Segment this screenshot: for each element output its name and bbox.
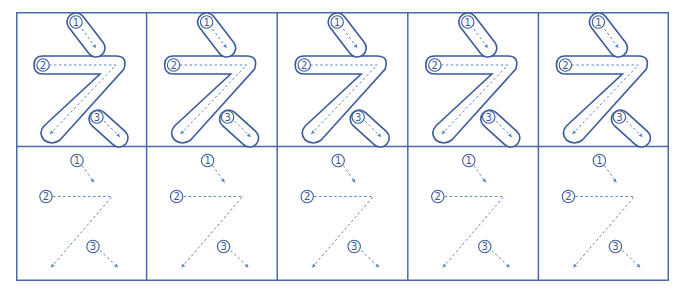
stroke-number-badge-3: 3 bbox=[91, 111, 103, 123]
stroke-number-badge-1: 1 bbox=[332, 154, 344, 166]
stroke-number: 3 bbox=[355, 112, 361, 123]
stroke-guide-line bbox=[622, 251, 640, 268]
stroke-number: 1 bbox=[73, 17, 79, 28]
arrow-head-icon bbox=[182, 264, 186, 268]
stroke-number-badge-1: 1 bbox=[592, 16, 604, 28]
practice-grid: 123123123123123123123123123123 bbox=[16, 12, 669, 281]
stroke-number: 2 bbox=[173, 191, 179, 202]
stroke-number: 1 bbox=[203, 17, 209, 28]
practice-sheet: 123123123123123123123123123123 bbox=[16, 12, 669, 281]
stroke-number-badge-1: 1 bbox=[331, 16, 343, 28]
stroke-number: 3 bbox=[220, 241, 226, 252]
stroke-number: 1 bbox=[335, 155, 341, 166]
cell-trace-guides-4[interactable]: 123 bbox=[432, 154, 510, 267]
stroke-number-badge-3: 3 bbox=[217, 240, 229, 252]
stroke-number: 1 bbox=[334, 17, 340, 28]
cell-trace-outline-2[interactable]: 123 bbox=[165, 13, 259, 147]
stroke-number: 2 bbox=[562, 60, 568, 71]
stroke-number-badge-2: 2 bbox=[562, 190, 574, 202]
stroke-guide-line bbox=[443, 197, 504, 268]
stroke-guide-line bbox=[231, 251, 249, 268]
stroke-number: 1 bbox=[595, 17, 601, 28]
stroke-guide-line bbox=[361, 251, 379, 268]
stroke-number-badge-3: 3 bbox=[613, 111, 625, 123]
stroke-number-badge-2: 2 bbox=[432, 190, 444, 202]
stroke-guide-line bbox=[573, 197, 634, 268]
stroke-number: 1 bbox=[465, 17, 471, 28]
stroke-number-badge-3: 3 bbox=[609, 240, 621, 252]
stroke-number-badge-1: 1 bbox=[201, 154, 213, 166]
stroke-guide-line bbox=[312, 197, 373, 268]
stroke-number-badge-2: 2 bbox=[37, 59, 49, 71]
stroke-number-badge-3: 3 bbox=[479, 240, 491, 252]
stroke-number: 3 bbox=[482, 241, 488, 252]
cell-trace-outline-1[interactable]: 123 bbox=[34, 13, 128, 147]
stroke-number: 3 bbox=[486, 112, 492, 123]
stroke-number: 2 bbox=[301, 60, 307, 71]
cell-trace-outline-3[interactable]: 123 bbox=[295, 13, 389, 147]
stroke-number: 3 bbox=[616, 112, 622, 123]
stroke-number: 3 bbox=[94, 112, 100, 123]
stroke-number-badge-1: 1 bbox=[200, 16, 212, 28]
stroke-number: 1 bbox=[466, 155, 472, 166]
stroke-number-badge-3: 3 bbox=[87, 240, 99, 252]
stroke-number: 2 bbox=[565, 191, 571, 202]
stroke-number: 1 bbox=[74, 155, 80, 166]
arrow-head-icon bbox=[573, 264, 577, 268]
stroke-number-badge-2: 2 bbox=[301, 190, 313, 202]
cell-trace-guides-2[interactable]: 123 bbox=[170, 154, 248, 267]
stroke-guide-line bbox=[100, 251, 118, 268]
cell-trace-outline-5[interactable]: 123 bbox=[556, 13, 650, 147]
stroke-guide-line bbox=[182, 197, 243, 268]
stroke-number: 2 bbox=[40, 60, 46, 71]
stroke-number: 2 bbox=[435, 191, 441, 202]
arrow-head-icon bbox=[312, 264, 316, 268]
stroke-number: 2 bbox=[43, 191, 49, 202]
stroke-number-badge-2: 2 bbox=[167, 59, 179, 71]
stroke-guide-line bbox=[492, 251, 510, 268]
stroke-number-badge-3: 3 bbox=[352, 111, 364, 123]
stroke-number-badge-2: 2 bbox=[40, 190, 52, 202]
stroke-number: 1 bbox=[596, 155, 602, 166]
stroke-number: 2 bbox=[170, 60, 176, 71]
arrow-head-icon bbox=[51, 264, 55, 268]
stroke-number: 3 bbox=[90, 241, 96, 252]
cell-trace-guides-5[interactable]: 123 bbox=[562, 154, 640, 267]
stroke-number: 3 bbox=[351, 241, 357, 252]
stroke-number-badge-1: 1 bbox=[463, 154, 475, 166]
stroke-number: 1 bbox=[204, 155, 210, 166]
stroke-number-badge-1: 1 bbox=[462, 16, 474, 28]
stroke-number-badge-2: 2 bbox=[170, 190, 182, 202]
stroke-number-badge-3: 3 bbox=[348, 240, 360, 252]
stroke-number: 2 bbox=[304, 191, 310, 202]
stroke-number-badge-1: 1 bbox=[70, 16, 82, 28]
cell-trace-outline-4[interactable]: 123 bbox=[426, 13, 520, 147]
stroke-guide-line bbox=[51, 197, 112, 268]
stroke-number: 3 bbox=[224, 112, 230, 123]
stroke-number-badge-2: 2 bbox=[298, 59, 310, 71]
stroke-number-badge-2: 2 bbox=[429, 59, 441, 71]
stroke-number-badge-1: 1 bbox=[593, 154, 605, 166]
stroke-number-badge-1: 1 bbox=[71, 154, 83, 166]
stroke-number-badge-2: 2 bbox=[559, 59, 571, 71]
stroke-number-badge-3: 3 bbox=[483, 111, 495, 123]
arrow-head-icon bbox=[443, 264, 447, 268]
stroke-number: 2 bbox=[432, 60, 438, 71]
stroke-number-badge-3: 3 bbox=[221, 111, 233, 123]
cell-trace-guides-1[interactable]: 123 bbox=[40, 154, 118, 267]
cell-trace-guides-3[interactable]: 123 bbox=[301, 154, 379, 267]
stroke-number: 3 bbox=[612, 241, 618, 252]
